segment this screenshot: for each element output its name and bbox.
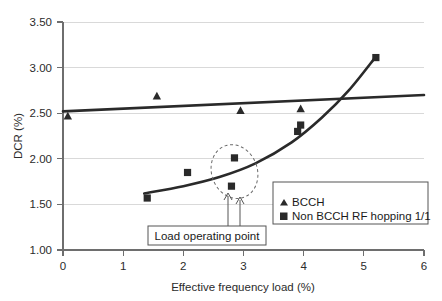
x-tick-label-4: 4 xyxy=(300,260,307,272)
data-point-square xyxy=(297,121,304,128)
square-icon xyxy=(280,213,288,221)
data-point-square xyxy=(184,169,191,176)
y-tick-label-2-00: 2.00 xyxy=(30,153,52,165)
dcr-vs-frequency-load-chart: 3.50 3.00 2.50 2.00 1.50 1.00 DCR (%) 0 … xyxy=(0,0,442,301)
x-axis-title: Effective frequency load (%) xyxy=(171,281,315,293)
callout-label: Load operating point xyxy=(155,230,261,242)
y-tick-label-1-50: 1.50 xyxy=(30,198,52,210)
y-tick-label-2-50: 2.50 xyxy=(30,107,52,119)
x-tick-label-3: 3 xyxy=(240,260,246,272)
y-tick-label-1-00: 1.00 xyxy=(30,244,52,256)
data-point-square xyxy=(228,183,235,190)
y-tick-label-3-50: 3.50 xyxy=(30,16,52,28)
data-point-square xyxy=(294,128,301,135)
data-point-square xyxy=(372,54,379,61)
data-point-square xyxy=(231,154,238,161)
chart-background xyxy=(0,0,442,301)
chart-figure: 3.50 3.00 2.50 2.00 1.50 1.00 DCR (%) 0 … xyxy=(0,0,442,301)
data-point-square xyxy=(144,194,151,201)
legend-label-bcch: BCCH xyxy=(292,196,325,208)
legend-label-non-bcch: Non BCCH RF hopping 1/1 xyxy=(292,210,431,222)
y-axis-title: DCR (%) xyxy=(12,113,24,159)
x-tick-label-2: 2 xyxy=(180,260,186,272)
x-tick-label-5: 5 xyxy=(361,260,367,272)
x-tick-label-6: 6 xyxy=(421,260,427,272)
y-tick-label-3-00: 3.00 xyxy=(30,62,52,74)
x-tick-label-1: 1 xyxy=(120,260,126,272)
x-tick-label-0: 0 xyxy=(60,260,66,272)
legend: BCCH Non BCCH RF hopping 1/1 xyxy=(273,182,431,224)
legend-entry-non-bcch[interactable]: Non BCCH RF hopping 1/1 xyxy=(280,210,431,222)
